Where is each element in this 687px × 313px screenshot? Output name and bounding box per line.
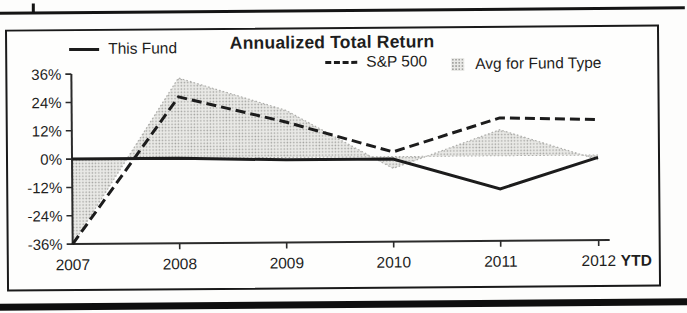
svg-text:2010: 2010 <box>377 253 412 270</box>
svg-text:2011: 2011 <box>484 253 517 270</box>
svg-text:2009: 2009 <box>270 254 305 271</box>
svg-text:2012: 2012 <box>582 252 617 269</box>
svg-text:-24%: -24% <box>27 207 62 224</box>
chart-plot: 36%24%12%0%-12%-24%-36%20072008200920102… <box>7 27 659 290</box>
svg-text:YTD: YTD <box>621 252 652 269</box>
svg-text:-12%: -12% <box>27 179 62 196</box>
svg-text:24%: 24% <box>31 94 61 111</box>
svg-text:0%: 0% <box>40 151 62 168</box>
scanned-page: Annualized Total Return This Fund S&P 50… <box>0 0 681 313</box>
svg-text:2007: 2007 <box>56 256 91 273</box>
svg-text:-36%: -36% <box>28 236 63 253</box>
page-top-rule <box>0 6 685 14</box>
plot-generated-content: 36%24%12%0%-12%-24%-36%20072008200920102… <box>26 61 652 273</box>
page-bottom-rule <box>0 298 687 310</box>
svg-text:12%: 12% <box>32 122 62 139</box>
svg-text:36%: 36% <box>31 66 61 83</box>
svg-text:2008: 2008 <box>163 255 198 272</box>
page-top-rule-tick <box>32 3 35 12</box>
chart-frame: Annualized Total Return This Fund S&P 50… <box>5 24 661 291</box>
